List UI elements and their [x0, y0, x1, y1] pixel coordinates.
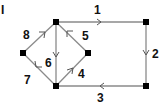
arrow-icon [35, 61, 42, 67]
node-c [53, 83, 59, 89]
node-e [143, 19, 149, 25]
edge-label-4: 4 [78, 67, 85, 81]
edge-label-6: 6 [45, 56, 52, 70]
edge-5: 5 [56, 22, 89, 53]
node-f [143, 83, 149, 89]
edge-label-3: 3 [97, 91, 104, 105]
node-b [53, 19, 59, 25]
figure-label: I [1, 3, 4, 17]
directed-graph-diagram: I 1 2 3 4 5 6 7 8 [0, 0, 161, 106]
edge-8: 8 [23, 22, 56, 53]
edge-label-2: 2 [152, 47, 159, 61]
node-a [20, 50, 26, 56]
edge-label-8: 8 [23, 28, 30, 42]
edge-4: 4 [56, 53, 88, 86]
edge-label-1: 1 [94, 3, 101, 17]
edge-1: 1 [56, 3, 146, 25]
edge-3: 3 [56, 83, 146, 105]
node-d [85, 50, 91, 56]
edge-2: 2 [143, 22, 159, 86]
edge-label-5: 5 [82, 29, 89, 43]
edge-label-7: 7 [24, 73, 31, 87]
